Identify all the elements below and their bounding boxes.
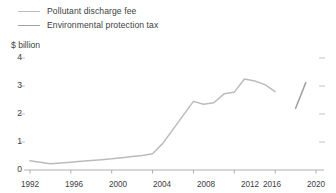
series-layer xyxy=(30,79,306,164)
y-tick-label-4: 4 xyxy=(10,52,22,62)
y-tick-label-3: 3 xyxy=(10,80,22,90)
x-tick-label-2020: 2020 xyxy=(301,180,331,189)
x-tick-label-1996: 1996 xyxy=(59,180,89,189)
series-line-pollutant-discharge-fee xyxy=(30,79,275,164)
x-tick-label-2008: 2008 xyxy=(191,180,221,189)
x-tick-label-2004: 2004 xyxy=(147,180,177,189)
chart-canvas xyxy=(0,0,336,193)
axis-layer xyxy=(20,58,325,174)
plot-area: 4 3 2 1 0 1992 1996 2000 2004 2008 2012 … xyxy=(0,0,336,193)
chart-figure: Pollutant discharge fee Environmental pr… xyxy=(0,0,336,193)
series-line-environmental-protection-tax xyxy=(296,83,306,109)
y-tick-label-0: 0 xyxy=(10,164,22,174)
x-tick-label-1992: 1992 xyxy=(15,180,45,189)
y-tick-label-1: 1 xyxy=(10,136,22,146)
y-tick-label-2: 2 xyxy=(10,108,22,118)
x-tick-label-2000: 2000 xyxy=(103,180,133,189)
x-tick-label-2016: 2016 xyxy=(257,180,287,189)
